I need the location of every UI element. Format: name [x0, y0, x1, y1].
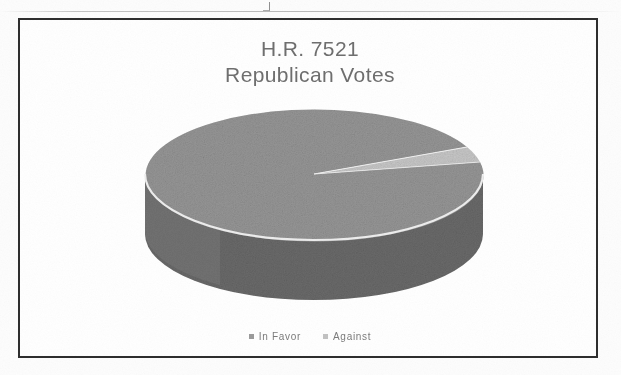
- legend-item-against[interactable]: Against: [323, 331, 371, 342]
- chart-frame: H.R. 7521 Republican Votes: [18, 18, 598, 358]
- legend-swatch-against: [323, 334, 328, 339]
- legend-label-against: Against: [333, 331, 371, 342]
- pie-body: [145, 110, 484, 300]
- legend-item-in-favor[interactable]: In Favor: [249, 331, 301, 342]
- scan-artifact-corner-mark: [263, 2, 270, 11]
- legend-label-in-favor: In Favor: [259, 331, 301, 342]
- scanned-page-background: H.R. 7521 Republican Votes: [0, 0, 621, 375]
- pie-chart-graphic: [20, 20, 600, 360]
- legend-swatch-in-favor: [249, 334, 254, 339]
- chart-legend: In Favor Against: [20, 331, 600, 342]
- scan-artifact-line: [0, 11, 621, 12]
